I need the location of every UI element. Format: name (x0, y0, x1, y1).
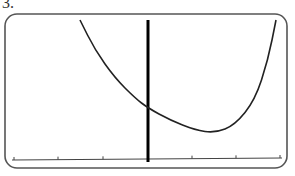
graph-window (0, 0, 295, 176)
function-curve (80, 20, 276, 132)
graph-frame (5, 14, 287, 168)
